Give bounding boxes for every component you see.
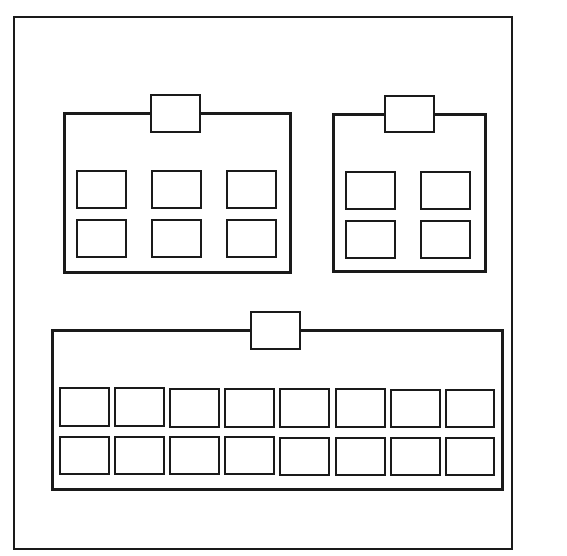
bottom-group-slot-16 xyxy=(445,437,495,476)
top-right-group-tab xyxy=(384,95,435,133)
bottom-group-slot-4 xyxy=(224,388,275,428)
top-left-group-tab xyxy=(150,94,201,133)
bottom-group-slot-7 xyxy=(390,389,441,428)
bottom-group-slot-12 xyxy=(224,436,275,475)
bottom-group-slot-15 xyxy=(390,437,441,476)
bottom-group-slot-11 xyxy=(169,436,220,475)
bottom-group-slot-14 xyxy=(335,437,386,476)
top-left-group-slot-5 xyxy=(151,219,202,258)
bottom-group-slot-5 xyxy=(279,388,330,428)
top-right-group-slot-3 xyxy=(345,220,396,259)
bottom-group-slot-1 xyxy=(59,387,110,427)
top-right-group-slot-4 xyxy=(420,220,471,259)
top-left-group-slot-3 xyxy=(226,170,277,209)
top-left-group-slot-4 xyxy=(76,219,127,258)
bottom-group-slot-3 xyxy=(169,388,220,428)
bottom-group-tab xyxy=(250,311,301,350)
bottom-group-slot-6 xyxy=(335,388,386,428)
top-left-group-slot-2 xyxy=(151,170,202,209)
top-left-group-slot-1 xyxy=(76,170,127,209)
bottom-group-slot-9 xyxy=(59,436,110,475)
top-right-group-slot-1 xyxy=(345,171,396,210)
top-right-group-slot-2 xyxy=(420,171,471,210)
bottom-group-slot-2 xyxy=(114,387,165,427)
diagram-title-cut-off xyxy=(0,0,567,5)
bottom-group-slot-8 xyxy=(445,389,495,428)
top-left-group-slot-6 xyxy=(226,219,277,258)
bottom-group-slot-13 xyxy=(279,437,330,476)
bottom-group-slot-10 xyxy=(114,436,165,475)
